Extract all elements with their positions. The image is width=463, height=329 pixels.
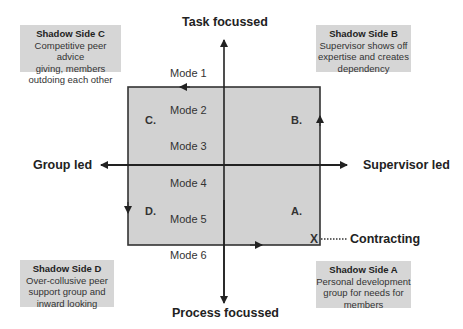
mode-4-label: Mode 4 — [170, 177, 207, 189]
shadow-side-d-line: Over-collusive peer — [20, 275, 114, 287]
shadow-side-b-line: Supervisor shows off — [316, 40, 411, 52]
mode-5-label: Mode 5 — [170, 213, 207, 225]
shadow-side-b-line: expertise and creates — [316, 51, 411, 63]
axis-label-process-focussed: Process focussed — [172, 306, 279, 320]
quadrant-d-label: D. — [145, 205, 156, 217]
shadow-side-c-box: Shadow Side C Competitive peer advice gi… — [20, 25, 121, 72]
shadow-side-d-box: Shadow Side D Over-collusive peer suppor… — [20, 260, 114, 307]
mode-3-label: Mode 3 — [170, 140, 207, 152]
shadow-side-c-line: Competitive peer advice — [20, 40, 121, 63]
axis-label-task-focussed: Task focussed — [182, 15, 268, 29]
contracting-label: Contracting — [350, 232, 420, 246]
contracting-marker: X — [310, 232, 318, 246]
axis-label-group-led: Group led — [33, 158, 92, 172]
shadow-side-a-line: members — [316, 299, 411, 311]
shadow-side-a-box: Shadow Side A Personal development group… — [316, 261, 411, 308]
mode-1-label: Mode 1 — [170, 67, 207, 79]
shadow-side-b-line: dependency — [316, 63, 411, 75]
quadrant-a-label: A. — [291, 205, 302, 217]
mode-2-label: Mode 2 — [170, 104, 207, 116]
shadow-side-b-box: Shadow Side B Supervisor shows off exper… — [316, 25, 411, 72]
axis-label-supervisor-led: Supervisor led — [363, 158, 450, 172]
quadrant-b-label: B. — [291, 114, 302, 126]
shadow-side-d-line: inward looking — [20, 298, 114, 310]
shadow-side-d-title: Shadow Side D — [20, 263, 114, 275]
mode-6-label: Mode 6 — [170, 249, 207, 261]
shadow-side-a-line: Personal development — [316, 276, 411, 288]
quadrant-c-label: C. — [145, 114, 156, 126]
shadow-side-c-title: Shadow Side C — [20, 28, 121, 40]
shadow-side-c-line: giving, members — [20, 63, 121, 75]
shadow-side-a-line: group for needs for — [316, 287, 411, 299]
shadow-side-a-title: Shadow Side A — [316, 264, 411, 276]
shadow-side-b-title: Shadow Side B — [316, 28, 411, 40]
shadow-side-d-line: support group and — [20, 286, 114, 298]
shadow-side-c-line: outdoing each other — [20, 74, 121, 86]
